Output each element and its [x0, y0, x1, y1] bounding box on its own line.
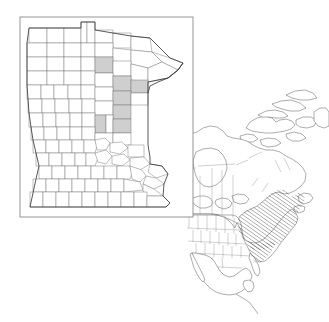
county-shaded [113, 76, 131, 91]
county [43, 113, 56, 127]
county [117, 166, 132, 179]
county [47, 28, 64, 43]
county [55, 99, 69, 113]
county [131, 36, 152, 52]
county [47, 43, 64, 57]
county-shaded [95, 57, 113, 73]
county [95, 101, 113, 115]
county-shaded [113, 91, 131, 105]
county-shaded [113, 105, 131, 119]
county [121, 192, 134, 207]
county [95, 87, 113, 101]
county [81, 71, 95, 85]
county [64, 28, 81, 43]
county [57, 127, 70, 140]
county [72, 179, 85, 192]
county [95, 73, 113, 87]
greenland-partial [314, 108, 329, 128]
county [95, 192, 108, 207]
county [82, 192, 95, 207]
county [82, 127, 95, 140]
county [27, 71, 47, 85]
county [131, 93, 148, 105]
county [113, 48, 131, 63]
county [111, 179, 124, 192]
county [33, 140, 46, 153]
yucatan-peninsula [243, 280, 254, 292]
county [98, 179, 111, 192]
county [64, 57, 81, 71]
county [49, 153, 62, 166]
county [29, 28, 47, 43]
county [78, 166, 91, 179]
county [36, 153, 49, 166]
county [81, 85, 95, 99]
county-shaded [95, 115, 106, 133]
map-canvas: Species distribution map east-central Mi… [0, 0, 329, 322]
county [72, 140, 84, 153]
canada-arctic-islands [240, 90, 317, 147]
county [81, 43, 95, 57]
county [42, 99, 55, 113]
county [82, 99, 95, 113]
county [128, 145, 144, 157]
county [68, 85, 81, 99]
county [108, 192, 121, 207]
county [54, 85, 68, 99]
county [64, 43, 81, 57]
county [27, 57, 47, 71]
county [27, 43, 47, 57]
county [69, 192, 82, 207]
county [44, 127, 57, 140]
county [113, 61, 131, 76]
county [47, 57, 64, 71]
county [82, 113, 95, 127]
county-shaded [131, 80, 148, 93]
county [85, 179, 98, 192]
central-america [236, 294, 258, 314]
county [81, 22, 87, 43]
county [62, 153, 75, 166]
county [46, 140, 59, 153]
county [43, 192, 56, 207]
county [46, 179, 59, 192]
county [59, 140, 72, 153]
county [27, 85, 41, 99]
county [39, 166, 52, 179]
distribution-map-figure: Species distribution map east-central Mi… [0, 0, 329, 322]
county [134, 192, 147, 207]
county [70, 127, 82, 140]
county [84, 140, 97, 153]
county-shaded [113, 119, 131, 133]
county [75, 153, 86, 166]
county [95, 30, 113, 43]
county [70, 113, 82, 127]
county [65, 166, 78, 179]
county [87, 22, 95, 43]
minnesota-inset [20, 17, 193, 217]
county [41, 85, 54, 99]
county [104, 166, 117, 179]
county [106, 115, 113, 133]
county [95, 43, 113, 57]
county [56, 192, 69, 207]
county [28, 99, 42, 113]
county [56, 113, 70, 127]
county [81, 57, 95, 71]
county [47, 71, 64, 85]
county [91, 166, 104, 179]
county [69, 99, 82, 113]
county [52, 166, 65, 179]
county [64, 71, 81, 85]
county [59, 179, 72, 192]
